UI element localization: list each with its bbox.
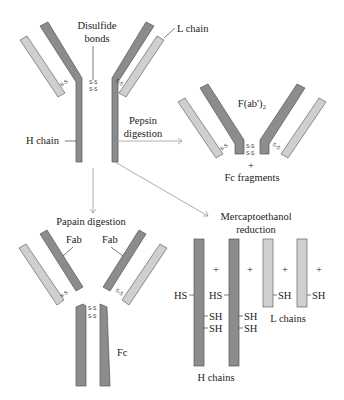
fab-label-right: Fab: [102, 234, 118, 245]
ss-bond-left: S-S: [59, 78, 70, 88]
mercaptoethanol-arrow: [115, 162, 208, 216]
pepsin-label-2: digestion: [124, 128, 163, 139]
ss-bond-hinge-1: S-S: [89, 79, 98, 85]
ss-bond-fab-right: S-S: [114, 287, 125, 297]
fc-heavy-left: [76, 304, 86, 386]
ss-bond-fab2-hinge-2: S-S: [246, 150, 255, 156]
plus-4: +: [316, 264, 322, 275]
l-chain-label: L chain: [177, 23, 209, 34]
sh-label-3: SH: [278, 290, 292, 301]
reduced-heavy-chain-2: [229, 239, 239, 366]
sh-label-4: SH: [312, 290, 326, 301]
arrows: [90, 138, 208, 216]
hs-label-1: HS: [174, 290, 188, 301]
pepsin-plus: +: [248, 160, 254, 171]
hs-label-2: HS: [209, 290, 223, 301]
sh-label-1a: SH: [209, 311, 223, 322]
fab2-label: F(ab')₂: [238, 98, 267, 110]
disulfide-bonds-label-2: bonds: [84, 33, 109, 44]
reduced-chains: + + + + HS HS SH SH SH SH SH SH L chains…: [174, 239, 326, 383]
disulfide-bonds-label-1: Disulfide: [77, 20, 116, 31]
fab-label-left: Fab: [66, 234, 82, 245]
h-chains-label: H chains: [197, 372, 234, 383]
reduced-heavy-chain-1: [194, 239, 204, 366]
ss-bond-fc-2: S-S: [88, 313, 97, 319]
fc-label: Fc: [117, 347, 128, 358]
ss-bond-fc-1: S-S: [88, 305, 97, 311]
fab2-fragment: S-S S-S S-S S-S F(ab')₂ + Fc fragments: [178, 84, 326, 183]
fab-left-leader-line: [63, 247, 73, 256]
plus-2: +: [247, 264, 253, 275]
l-chain-leader-line: [164, 28, 175, 38]
ss-bond-fab-left: S-S: [59, 289, 70, 299]
pepsin-label-1: Pepsin: [129, 115, 158, 126]
l-chains-label: L chains: [270, 313, 305, 324]
ss-bond-fab2-left: S-S: [219, 142, 230, 152]
plus-3: +: [282, 264, 288, 275]
papain-digestion-label: Papain digestion: [56, 216, 126, 227]
reduced-light-chain-2: [297, 239, 307, 307]
ss-bond-fab2-right: S-S: [271, 141, 282, 151]
sh-label-2b: SH: [244, 323, 258, 334]
ss-bond-fab2-hinge-1: S-S: [246, 143, 255, 149]
h-chain-label: H chain: [26, 135, 60, 146]
papain-products: S-S S-S Fab Fab S-S S-S Fc: [19, 230, 167, 386]
fab-right-leader-line: [111, 247, 123, 256]
fc-fragments-label: Fc fragments: [224, 172, 279, 183]
mercaptoethanol-label-2: reduction: [236, 224, 276, 235]
ss-bond-hinge-2: S-S: [89, 86, 98, 92]
antibody-cleavage-diagram: S-S S-S S-S S-S Disulfide bonds L chain …: [0, 0, 344, 400]
sh-label-2a: SH: [244, 311, 258, 322]
fc-heavy-right: [100, 304, 110, 386]
mercaptoethanol-label-1: Mercaptoethanol: [220, 211, 291, 222]
reduced-light-chain-1: [263, 239, 273, 307]
plus-1: +: [213, 264, 219, 275]
sh-label-1b: SH: [209, 323, 223, 334]
